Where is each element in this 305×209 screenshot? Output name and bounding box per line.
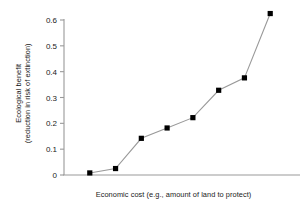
chart-plot-area: 00.10.20.30.40.50.6 xyxy=(0,0,305,209)
data-point-marker xyxy=(216,88,221,93)
x-axis-label: Economic cost (e.g., amount of land to p… xyxy=(46,190,301,199)
chart-figure: Ecological benefit (reduction in risk of… xyxy=(0,0,305,209)
data-point-marker xyxy=(87,170,92,175)
data-point-marker xyxy=(165,125,170,130)
y-axis-tick-label: 0.6 xyxy=(46,16,58,25)
data-point-marker xyxy=(242,75,247,80)
y-axis-tick-label: 0.1 xyxy=(46,145,58,154)
data-point-marker xyxy=(268,11,273,16)
y-axis-tick-label: 0.4 xyxy=(46,68,58,77)
data-series-line xyxy=(90,14,270,173)
y-axis-tick-label: 0.5 xyxy=(46,42,58,51)
data-point-marker xyxy=(139,136,144,141)
data-point-marker xyxy=(190,115,195,120)
y-axis-tick-label: 0.2 xyxy=(46,119,58,128)
y-axis-tick-label: 0.3 xyxy=(46,94,58,103)
y-axis-tick-label: 0 xyxy=(53,171,58,180)
series-line xyxy=(90,14,270,173)
data-markers xyxy=(87,11,273,176)
y-axis: 00.10.20.30.40.50.6 xyxy=(46,16,64,180)
data-point-marker xyxy=(113,166,118,171)
